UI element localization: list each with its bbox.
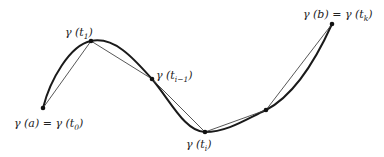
point-t1 [89, 39, 94, 44]
curve-diagram: γ (a) = γ (t0) γ (t1) γ (ti−1) γ (ti) γ … [0, 0, 384, 157]
label-gamma-b: γ (b) = γ (tk) [303, 8, 373, 23]
point-ti [203, 130, 208, 135]
point-ti-minus-1 [150, 77, 155, 82]
point-intermediate [264, 108, 269, 113]
label-gamma-ti-minus-1: γ (ti−1) [156, 69, 193, 84]
label-gamma-a: γ (a) = γ (t0) [14, 117, 83, 132]
label-gamma-ti: γ (ti) [186, 138, 212, 153]
point-tk [330, 22, 335, 27]
point-t0 [41, 106, 46, 111]
label-gamma-t1: γ (t1) [65, 26, 93, 41]
